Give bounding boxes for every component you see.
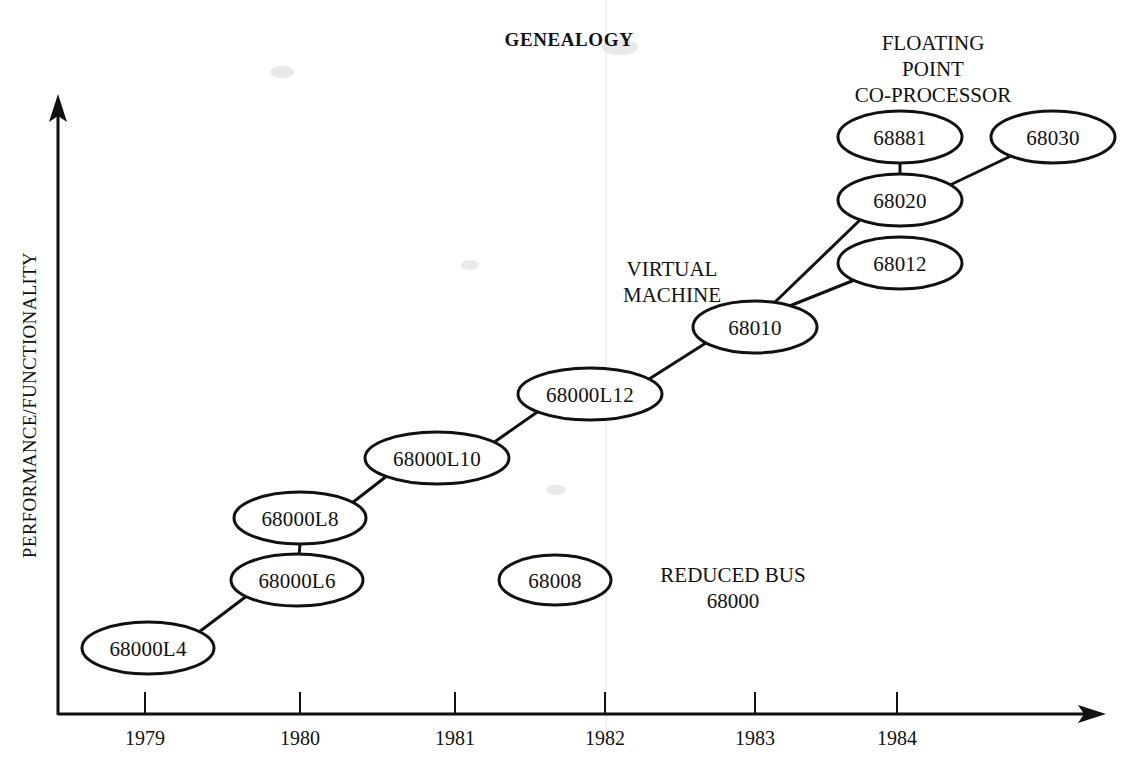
node-68000L4[interactable]: 68000L4: [82, 622, 214, 674]
node-68881[interactable]: 68881: [838, 111, 962, 163]
node-label: 68020: [873, 189, 927, 213]
node-68012[interactable]: 68012: [838, 237, 962, 289]
edge-68000L4-68000L6: [199, 592, 252, 632]
node-label: 68000L8: [261, 507, 338, 531]
annotation-virtual-machine: VIRTUAL MACHINE: [623, 257, 721, 307]
x-tick-label-1981: 1981: [435, 727, 475, 749]
node-68008[interactable]: 68008: [499, 555, 611, 605]
node-label: 68012: [873, 252, 927, 276]
x-axis-tick-labels: 1979 1980 1981 1982 1983 1984: [125, 727, 917, 749]
scan-speck: [546, 485, 566, 495]
floating-point-line-3: CO-PROCESSOR: [855, 83, 1011, 107]
edge-68000L10-68000L12: [493, 408, 543, 443]
node-label: 68030: [1026, 126, 1080, 150]
node-label: 68881: [873, 126, 927, 150]
virtual-machine-line-1: VIRTUAL: [627, 257, 718, 281]
reduced-bus-line-2: 68000: [707, 589, 760, 613]
node-68030[interactable]: 68030: [991, 111, 1115, 163]
edge-68000L12-68010: [646, 341, 709, 381]
node-68020[interactable]: 68020: [838, 174, 962, 226]
edge-68010-68012: [787, 279, 857, 307]
genealogy-diagram: 1979 1980 1981 1982 1983 1984 PERFORMANC…: [0, 0, 1134, 771]
virtual-machine-line-2: MACHINE: [623, 283, 721, 307]
floating-point-line-2: POINT: [902, 57, 964, 81]
annotation-floating-point-coprocessor: FLOATING POINT CO-PROCESSOR: [855, 31, 1011, 107]
node-68000L10[interactable]: 68000L10: [365, 432, 509, 484]
node-label: 68000L10: [393, 447, 481, 471]
genealogy-nodes: 68000L4 68000L6 68000L8 68000L10 68000L1…: [82, 111, 1115, 674]
node-68010[interactable]: 68010: [693, 301, 817, 353]
node-68000L12[interactable]: 68000L12: [518, 368, 662, 420]
scan-speck: [461, 260, 479, 270]
x-tick-label-1984: 1984: [877, 727, 917, 749]
reduced-bus-line-1: REDUCED BUS: [660, 563, 805, 587]
node-label: 68000L12: [546, 383, 634, 407]
edge-68020-68030: [948, 155, 1013, 186]
x-tick-label-1983: 1983: [735, 727, 775, 749]
diagram-canvas: 1979 1980 1981 1982 1983 1984 PERFORMANC…: [0, 0, 1134, 771]
x-tick-label-1980: 1980: [280, 727, 320, 749]
page-title: GENEALOGY: [505, 29, 634, 50]
annotation-reduced-bus: REDUCED BUS 68000: [660, 563, 805, 613]
node-label: 68008: [528, 569, 582, 593]
node-label: 68000L4: [109, 637, 187, 661]
x-axis-ticks: [145, 692, 897, 714]
floating-point-line-1: FLOATING: [882, 31, 985, 55]
node-68000L6[interactable]: 68000L6: [231, 554, 363, 606]
x-tick-label-1982: 1982: [585, 727, 625, 749]
scan-speck: [270, 66, 294, 78]
node-label: 68000L6: [258, 569, 335, 593]
x-tick-label-1979: 1979: [125, 727, 165, 749]
y-axis-title: PERFORMANCE/FUNCTIONALITY: [19, 252, 40, 558]
node-label: 68010: [728, 316, 782, 340]
node-68000L8[interactable]: 68000L8: [234, 492, 366, 544]
